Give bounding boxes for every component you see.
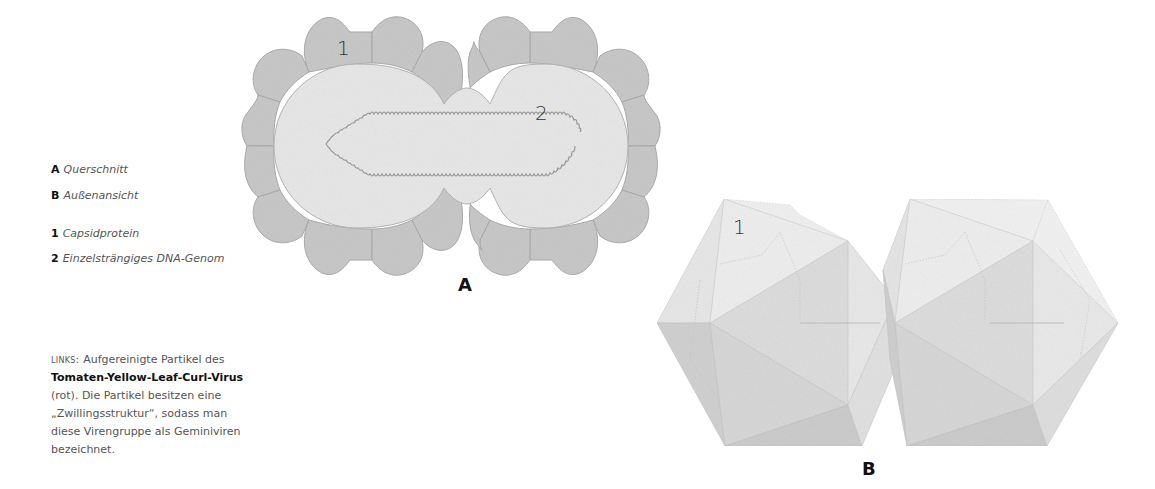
panel-label-a: A xyxy=(458,274,472,295)
genome-label-a: 2 xyxy=(535,101,548,125)
panel-label-b: B xyxy=(862,458,876,479)
external-view-diagram xyxy=(657,199,1118,446)
icosahedron-left xyxy=(657,199,895,446)
cross-section-diagram xyxy=(242,17,660,275)
capsid-protein-label-b: 1 xyxy=(733,215,746,239)
capsid-protein-label-a: 1 xyxy=(337,36,350,60)
virus-illustrations xyxy=(0,0,1155,489)
icosahedron-right xyxy=(883,199,1118,446)
